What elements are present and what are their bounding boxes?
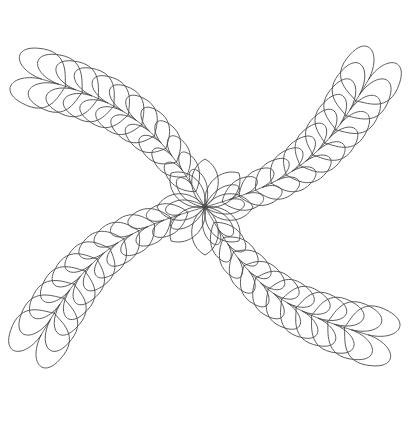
feather-motif-svg bbox=[0, 0, 410, 422]
drawing-canvas bbox=[0, 0, 410, 422]
